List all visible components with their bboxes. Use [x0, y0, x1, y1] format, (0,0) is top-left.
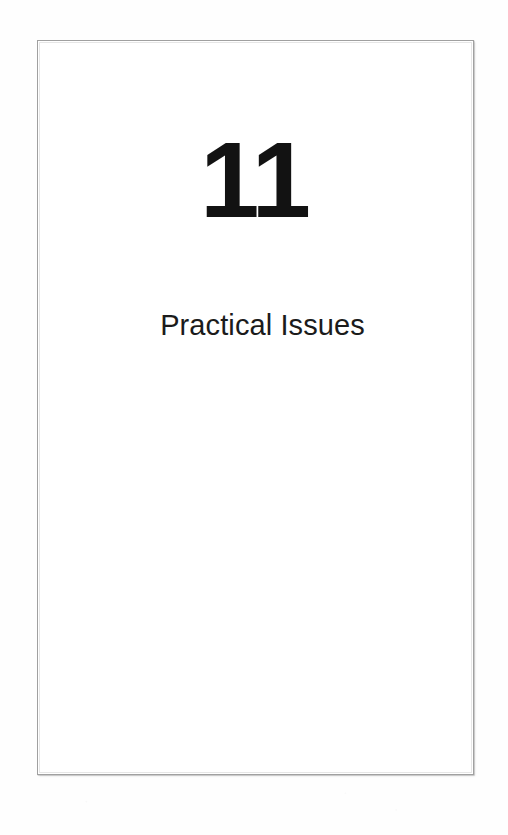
scanned-page-canvas: 11 Practical Issues: [0, 0, 508, 835]
chapter-title: Practical Issues: [38, 309, 473, 342]
page-body-blank-area: [38, 371, 473, 774]
chapter-number: 11: [38, 127, 473, 234]
book-page: 11 Practical Issues: [37, 40, 474, 775]
